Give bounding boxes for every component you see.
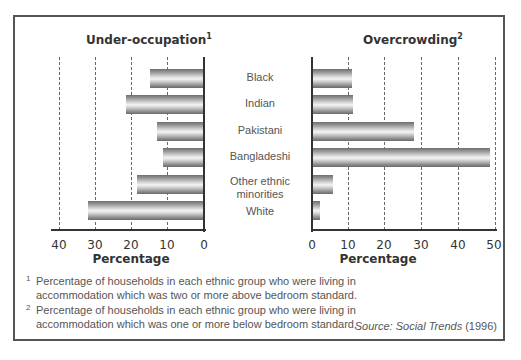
left-panel-title: Under-occupation1 [86,32,212,47]
category-label: Bangladeshi [215,150,305,163]
right-tick: 0 [308,238,316,252]
left-x-label: Percentage [92,252,169,266]
category-label: Other ethnicminorities [215,175,305,201]
right-tick: 10 [340,238,355,252]
left-tick: 20 [123,238,138,252]
bar-over-black [312,69,352,88]
right-tick: 50 [486,238,501,252]
left-tick: 0 [200,238,208,252]
right-x-axis [311,229,497,231]
gridline [59,57,60,230]
gridline [421,57,422,230]
left-y-axis [203,57,205,232]
gridline [495,57,496,230]
left-tick: 30 [87,238,102,252]
gridline [458,57,459,230]
bar-over-indian [312,95,353,114]
bar-under-black [150,69,204,88]
bar-over-white [312,201,320,220]
footnote-2: 2Percentage of households in each ethnic… [36,303,357,331]
left-tick: 10 [159,238,174,252]
right-y-axis [311,57,313,232]
source-credit: Source: Social Trends (1996) [355,320,497,332]
category-label: White [215,205,305,218]
bar-under-white [88,201,204,220]
left-tick: 40 [51,238,66,252]
footnote-1: 1Percentage of households in each ethnic… [36,274,357,302]
bar-under-pakistani [157,122,204,141]
right-tick: 30 [413,238,428,252]
gridline [384,57,385,230]
category-label: Black [215,71,305,84]
left-x-axis [51,229,206,231]
right-x-label: Percentage [339,252,416,266]
right-tick: 20 [376,238,391,252]
bar-under-bangladeshi [163,148,204,167]
category-label: Pakistani [215,124,305,137]
category-label: Indian [215,97,305,110]
bar-over-bangladeshi [312,148,490,167]
bar-over-other [312,175,333,194]
bar-over-pakistani [312,122,414,141]
bar-under-indian [126,95,204,114]
right-panel-title: Overcrowding2 [363,32,463,47]
right-tick: 40 [450,238,465,252]
bar-under-other [137,175,204,194]
